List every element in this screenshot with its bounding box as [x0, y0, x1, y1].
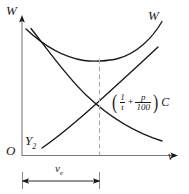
- formula-fraction-one: 1 t: [119, 93, 126, 113]
- formula-frac1-denominator: t: [120, 102, 125, 112]
- curves-group: [26, 22, 162, 149]
- curve-w-label: W: [148, 9, 159, 22]
- y-axis-label: W: [6, 4, 17, 17]
- formula-frac2-numerator: p: [140, 93, 147, 102]
- formula-operator: +: [128, 97, 134, 107]
- dimension-label: ve: [55, 163, 63, 177]
- formula-frac1-numerator: 1: [119, 93, 126, 102]
- formula-fraction-two: p 100: [135, 93, 151, 113]
- dimension-label-subscript: e: [60, 169, 63, 176]
- curve-cost-function-label: ( 1 t + p 100 ) C: [111, 92, 169, 113]
- axes-group: [19, 15, 178, 158]
- curve-y2-label-subscript: 2: [32, 142, 36, 151]
- formula-close-paren: ): [153, 92, 158, 113]
- curve-w: [26, 22, 162, 62]
- formula-frac2-denominator: 100: [135, 102, 151, 112]
- formula-trailing-variable: C: [161, 96, 169, 108]
- formula-open-paren: (: [112, 92, 117, 113]
- curve-y2-label: Y2: [25, 134, 36, 151]
- x-axis-label: v: [168, 150, 173, 162]
- origin-label: O: [6, 144, 15, 157]
- figure-canvas: W W Y2 O v ve ( 1 t + p 100 ) C: [0, 0, 189, 194]
